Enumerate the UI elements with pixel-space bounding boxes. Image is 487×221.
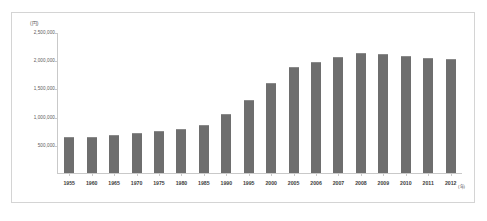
- bar[interactable]: [244, 100, 254, 173]
- bar-slot: 2010: [395, 33, 417, 173]
- bar[interactable]: [446, 59, 456, 173]
- bar[interactable]: [356, 53, 366, 173]
- bar-slot: 2007: [327, 33, 349, 173]
- y-axis-tick-mark: [55, 118, 58, 119]
- x-axis-tick-mark: [361, 173, 362, 176]
- x-axis-tick-mark: [338, 173, 339, 176]
- bar[interactable]: [109, 135, 119, 173]
- bar[interactable]: [266, 83, 276, 173]
- bar-slot: 2006: [305, 33, 327, 173]
- bar-slot: 1980: [170, 33, 192, 173]
- bar-slot: 1965: [103, 33, 125, 173]
- chart-frame: (円) 500,0001,000,0001,500,0002,000,0002,…: [11, 12, 475, 203]
- bar-slot: 2008: [350, 33, 372, 173]
- y-axis-tick-label: 500,000: [15, 144, 55, 149]
- x-axis-tick-mark: [226, 173, 227, 176]
- x-axis-tick-mark: [159, 173, 160, 176]
- x-axis-tick-mark: [69, 173, 70, 176]
- x-axis-tick-mark: [137, 173, 138, 176]
- x-axis-tick-label: 2009: [378, 181, 390, 186]
- bar-slot: 2012: [439, 33, 461, 173]
- x-axis-tick-label: 1995: [243, 181, 255, 186]
- x-axis-tick-mark: [114, 173, 115, 176]
- y-axis-tick-label: 1,000,000: [15, 115, 55, 120]
- x-axis-tick-label: 1960: [86, 181, 98, 186]
- y-axis-tick-mark: [55, 61, 58, 62]
- x-axis-tick-label: 1970: [131, 181, 143, 186]
- chart-page: (円) 500,0001,000,0001,500,0002,000,0002,…: [0, 0, 487, 221]
- bar-slot: 1970: [125, 33, 147, 173]
- x-axis-tick-mark: [271, 173, 272, 176]
- bar-slot: 1960: [80, 33, 102, 173]
- x-axis-tick-label: 1990: [221, 181, 233, 186]
- x-axis-tick-mark: [451, 173, 452, 176]
- plot-area: 500,0001,000,0001,500,0002,000,0002,500,…: [57, 33, 462, 174]
- x-axis-tick-label: 2007: [333, 181, 345, 186]
- x-axis-tick-mark: [181, 173, 182, 176]
- y-axis-tick-label: 2,500,000: [15, 31, 55, 36]
- x-axis-tick-mark: [383, 173, 384, 176]
- x-axis-tick-mark: [249, 173, 250, 176]
- x-axis-tick-label: 2000: [265, 181, 277, 186]
- x-axis-tick-label: 2010: [400, 181, 412, 186]
- x-axis-tick-label: 2006: [310, 181, 322, 186]
- y-axis-tick-label: 1,500,000: [15, 87, 55, 92]
- x-axis-tick-label: 2011: [423, 181, 434, 186]
- x-axis-tick-label: 1975: [153, 181, 165, 186]
- bar[interactable]: [378, 54, 388, 173]
- y-axis-tick-mark: [55, 89, 58, 90]
- bar[interactable]: [333, 57, 343, 173]
- bar[interactable]: [423, 58, 433, 173]
- x-axis-tick-label: 1955: [63, 181, 75, 186]
- x-axis-unit-label: (年): [458, 185, 465, 189]
- x-axis-tick-label: 2008: [355, 181, 367, 186]
- x-axis-tick-label: 1985: [198, 181, 210, 186]
- bar-slot: 1975: [148, 33, 170, 173]
- bar-slot: 2000: [260, 33, 282, 173]
- bar-slot: 2005: [282, 33, 304, 173]
- bar-slot: 1995: [238, 33, 260, 173]
- bar[interactable]: [154, 131, 164, 173]
- bar[interactable]: [311, 62, 321, 173]
- bar-series: 1955196019651970197519801985199019952000…: [58, 33, 462, 173]
- y-axis-unit-label: (円): [30, 21, 38, 26]
- x-axis-tick-label: 2012: [445, 181, 457, 186]
- x-axis-tick-label: 2005: [288, 181, 300, 186]
- bar-slot: 2011: [417, 33, 439, 173]
- x-axis-line: [57, 173, 462, 174]
- bar[interactable]: [64, 137, 74, 173]
- x-axis-tick-mark: [316, 173, 317, 176]
- x-axis-tick-mark: [204, 173, 205, 176]
- x-axis-tick-mark: [406, 173, 407, 176]
- x-axis-tick-label: 1980: [176, 181, 188, 186]
- bar[interactable]: [132, 133, 142, 173]
- bar-slot: 1990: [215, 33, 237, 173]
- bar[interactable]: [289, 67, 299, 173]
- bar[interactable]: [401, 56, 411, 173]
- bar-slot: 2009: [372, 33, 394, 173]
- bar-slot: 1985: [193, 33, 215, 173]
- y-axis-tick-label: 2,000,000: [15, 59, 55, 64]
- y-axis-tick-mark: [55, 33, 58, 34]
- bar[interactable]: [221, 114, 231, 173]
- bar[interactable]: [87, 137, 97, 173]
- bar-slot: 1955: [58, 33, 80, 173]
- x-axis-tick-mark: [92, 173, 93, 176]
- y-axis-tick-mark: [55, 146, 58, 147]
- x-axis-tick-mark: [294, 173, 295, 176]
- bar[interactable]: [199, 125, 209, 173]
- x-axis-tick-mark: [428, 173, 429, 176]
- x-axis-tick-label: 1965: [108, 181, 120, 186]
- bar[interactable]: [176, 129, 186, 173]
